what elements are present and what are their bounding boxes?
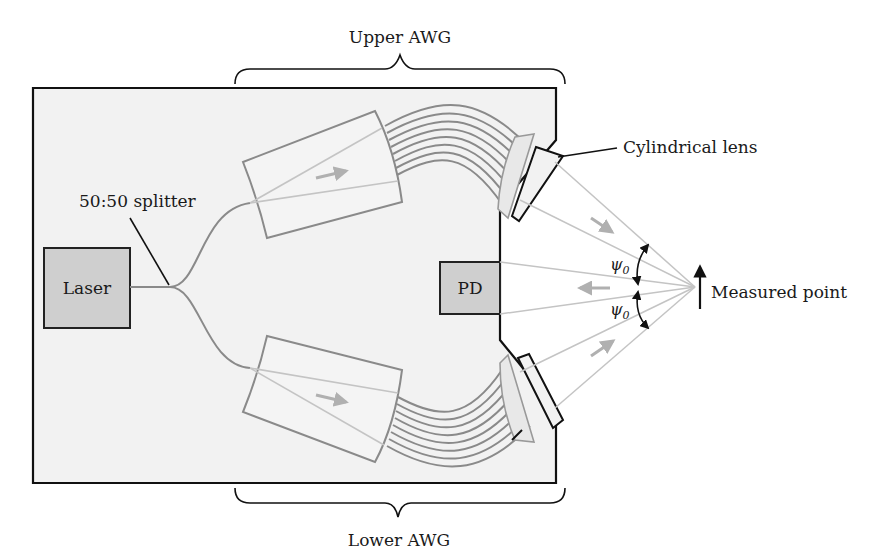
- upper-angle-arc: [637, 245, 648, 284]
- awg-diagram: Upper AWG Lower AWG Laser PD 50:50 split…: [0, 0, 873, 559]
- psi-upper-label: ψ0: [610, 255, 630, 277]
- splitter-label: 50:50 splitter: [79, 191, 197, 211]
- laser-label: Laser: [63, 278, 112, 298]
- lower-awg-label: Lower AWG: [348, 530, 450, 550]
- psi-lower-label: ψ0: [610, 300, 630, 322]
- lower-awg-brace: [235, 488, 565, 517]
- pd-label: PD: [457, 278, 482, 298]
- beam-arrow-up: [591, 341, 613, 356]
- beam-arrow-down: [591, 218, 612, 232]
- cylindrical-lens-label: Cylindrical lens: [623, 137, 758, 157]
- cylindrical-lens-pointer: [558, 148, 617, 157]
- upper-awg-brace: [235, 55, 565, 84]
- measured-point-label: Measured point: [711, 282, 847, 302]
- upper-awg-label: Upper AWG: [349, 27, 451, 47]
